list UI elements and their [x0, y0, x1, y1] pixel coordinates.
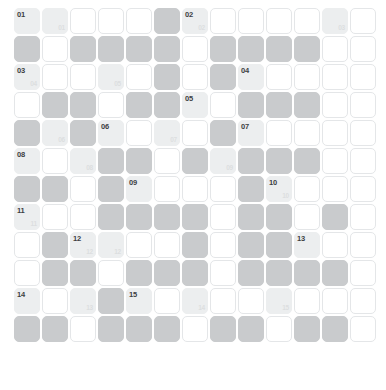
grid-cell-empty[interactable] — [154, 148, 180, 174]
grid-cell-numbered[interactable]: 05 — [182, 92, 208, 118]
grid-cell-empty[interactable] — [266, 8, 292, 34]
grid-cell-empty[interactable] — [182, 64, 208, 90]
grid-cell-numbered[interactable]: 13 — [294, 232, 320, 258]
grid-cell-empty[interactable] — [294, 64, 320, 90]
grid-cell-numbered[interactable]: 08 — [14, 148, 40, 174]
grid-cell-empty[interactable] — [294, 204, 320, 230]
grid-cell-numbered[interactable]: 0304 — [14, 64, 40, 90]
grid-cell-empty[interactable] — [182, 176, 208, 202]
grid-cell-empty[interactable] — [126, 232, 152, 258]
grid-cell-empty[interactable] — [210, 288, 236, 314]
grid-cell-numbered[interactable]: 1212 — [70, 232, 96, 258]
grid-cell-empty[interactable] — [350, 204, 376, 230]
grid-cell-empty[interactable] — [210, 260, 236, 286]
grid-cell-empty[interactable] — [350, 232, 376, 258]
cell-number-echo: 06 — [58, 136, 65, 144]
grid-cell-empty[interactable] — [266, 316, 292, 342]
grid-cell-empty[interactable] — [98, 92, 124, 118]
grid-cell-empty[interactable] — [210, 8, 236, 34]
grid-cell-empty[interactable] — [350, 288, 376, 314]
grid-cell-empty[interactable] — [294, 288, 320, 314]
grid-cell-empty[interactable] — [266, 64, 292, 90]
grid-cell-empty[interactable]: 05 — [98, 64, 124, 90]
grid-cell-empty[interactable] — [266, 120, 292, 146]
grid-cell-empty[interactable] — [42, 204, 68, 230]
grid-cell-empty[interactable] — [322, 232, 348, 258]
grid-cell-empty[interactable]: 01 — [42, 8, 68, 34]
grid-cell-empty[interactable]: 07 — [154, 120, 180, 146]
grid-cell-empty[interactable] — [210, 176, 236, 202]
grid-cell-empty[interactable] — [126, 120, 152, 146]
grid-cell-numbered[interactable]: 1010 — [266, 176, 292, 202]
grid-cell-empty[interactable] — [350, 8, 376, 34]
grid-cell-empty[interactable] — [210, 92, 236, 118]
grid-cell-numbered[interactable]: 1111 — [14, 204, 40, 230]
grid-cell-empty[interactable] — [98, 260, 124, 286]
grid-cell-blocked — [266, 36, 292, 62]
grid-cell-empty[interactable] — [42, 64, 68, 90]
grid-cell-empty[interactable]: 15 — [266, 288, 292, 314]
grid-cell-empty[interactable] — [154, 288, 180, 314]
grid-cell-empty[interactable] — [238, 288, 264, 314]
grid-cell-empty[interactable] — [154, 232, 180, 258]
grid-cell-numbered[interactable]: 0202 — [182, 8, 208, 34]
grid-cell-empty[interactable] — [154, 176, 180, 202]
grid-cell-empty[interactable] — [70, 316, 96, 342]
grid-cell-empty[interactable]: 06 — [42, 120, 68, 146]
grid-cell-empty[interactable] — [70, 8, 96, 34]
grid-cell-empty[interactable] — [350, 260, 376, 286]
grid-cell-numbered[interactable]: 07 — [238, 120, 264, 146]
grid-cell-empty[interactable] — [350, 316, 376, 342]
grid-cell-empty[interactable] — [294, 176, 320, 202]
grid-cell-empty[interactable] — [70, 64, 96, 90]
grid-cell-empty[interactable] — [322, 288, 348, 314]
grid-cell-empty[interactable] — [350, 120, 376, 146]
grid-cell-empty[interactable]: 12 — [98, 232, 124, 258]
grid-cell-empty[interactable] — [42, 288, 68, 314]
grid-cell-empty[interactable] — [350, 64, 376, 90]
grid-cell-empty[interactable] — [14, 260, 40, 286]
grid-cell-blocked — [154, 92, 180, 118]
grid-cell-empty[interactable] — [350, 176, 376, 202]
cell-number-echo: 03 — [338, 24, 345, 32]
grid-cell-empty[interactable] — [182, 36, 208, 62]
grid-cell-empty[interactable] — [322, 64, 348, 90]
grid-cell-empty[interactable] — [294, 120, 320, 146]
grid-cell-empty[interactable] — [42, 36, 68, 62]
grid-cell-empty[interactable]: 13 — [70, 288, 96, 314]
grid-cell-blocked — [238, 260, 264, 286]
grid-cell-numbered[interactable]: 09 — [126, 176, 152, 202]
grid-cell-empty[interactable] — [294, 8, 320, 34]
grid-cell-empty[interactable] — [70, 176, 96, 202]
grid-cell-empty[interactable] — [350, 148, 376, 174]
grid-cell-empty[interactable] — [210, 204, 236, 230]
grid-cell-empty[interactable] — [322, 176, 348, 202]
grid-cell-numbered[interactable]: 15 — [126, 288, 152, 314]
grid-cell-empty[interactable] — [350, 92, 376, 118]
grid-cell-empty[interactable] — [322, 92, 348, 118]
grid-cell-empty[interactable]: 03 — [322, 8, 348, 34]
cell-number-echo: 05 — [114, 80, 121, 88]
grid-cell-numbered[interactable]: 06 — [98, 120, 124, 146]
grid-cell-numbered[interactable]: 04 — [238, 64, 264, 90]
grid-cell-empty[interactable] — [322, 148, 348, 174]
grid-cell-empty[interactable] — [350, 36, 376, 62]
grid-cell-empty[interactable]: 08 — [70, 148, 96, 174]
grid-cell-empty[interactable] — [182, 120, 208, 146]
grid-cell-empty[interactable] — [70, 204, 96, 230]
grid-cell-empty[interactable] — [210, 232, 236, 258]
grid-cell-empty[interactable] — [322, 120, 348, 146]
grid-cell-numbered[interactable]: 01 — [14, 8, 40, 34]
grid-cell-empty[interactable] — [14, 232, 40, 258]
grid-cell-empty[interactable] — [182, 316, 208, 342]
grid-cell-empty[interactable] — [126, 64, 152, 90]
grid-cell-empty[interactable]: 09 — [210, 148, 236, 174]
grid-cell-empty[interactable] — [98, 8, 124, 34]
grid-cell-numbered[interactable]: 14 — [14, 288, 40, 314]
grid-cell-empty[interactable] — [322, 36, 348, 62]
grid-cell-empty[interactable]: 14 — [182, 288, 208, 314]
grid-cell-empty[interactable] — [126, 8, 152, 34]
grid-cell-empty[interactable] — [238, 8, 264, 34]
grid-cell-empty[interactable] — [14, 92, 40, 118]
grid-cell-empty[interactable] — [42, 148, 68, 174]
